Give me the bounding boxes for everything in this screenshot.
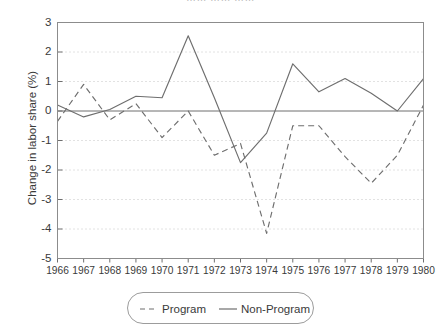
x-tick-label: 1968 [97, 265, 123, 276]
y-tick-label: -5 [24, 253, 52, 264]
x-tick-label: 1974 [254, 265, 280, 276]
x-tick-label: 1967 [71, 265, 97, 276]
x-tick-label: 1971 [175, 265, 201, 276]
plot-area [0, 0, 441, 335]
y-tick-label: 1 [24, 76, 52, 87]
y-tick-label: 0 [24, 105, 52, 116]
x-tick-label: 1970 [149, 265, 175, 276]
legend-label-program: Program [162, 303, 206, 315]
series-line-program [58, 84, 424, 233]
x-tick-label: 1977 [332, 265, 358, 276]
y-tick-label: -4 [24, 223, 52, 234]
x-tick-label: 1975 [280, 265, 306, 276]
solid-line-icon [219, 303, 237, 315]
x-tick-label: 1980 [411, 265, 437, 276]
x-tick-label: 1978 [358, 265, 384, 276]
x-tick-label: 1969 [123, 265, 149, 276]
y-axis-tick-marks [58, 23, 63, 259]
legend: Program Non-Program [127, 292, 314, 324]
data-series-lines [58, 36, 424, 234]
dashed-line-icon [140, 303, 158, 315]
y-tick-label: -2 [24, 164, 52, 175]
plot-frame-border [58, 23, 424, 259]
legend-entry-program: Program [140, 293, 206, 325]
legend-label-non-program: Non-Program [241, 303, 310, 315]
x-tick-label: 1972 [201, 265, 227, 276]
legend-entry-non-program: Non-Program [219, 293, 310, 325]
y-tick-label: -1 [24, 135, 52, 146]
y-tick-label: 3 [24, 17, 52, 28]
y-tick-label: 2 [24, 46, 52, 57]
chart-figure: …… …… …… Change in labor share (%) 3210-… [0, 0, 441, 335]
y-tick-label: -3 [24, 194, 52, 205]
x-axis-tick-marks [58, 259, 424, 263]
x-tick-label: 1976 [306, 265, 332, 276]
x-tick-label: 1979 [384, 265, 410, 276]
x-tick-label: 1973 [228, 265, 254, 276]
x-tick-label: 1966 [45, 265, 71, 276]
gridlines [58, 23, 424, 259]
